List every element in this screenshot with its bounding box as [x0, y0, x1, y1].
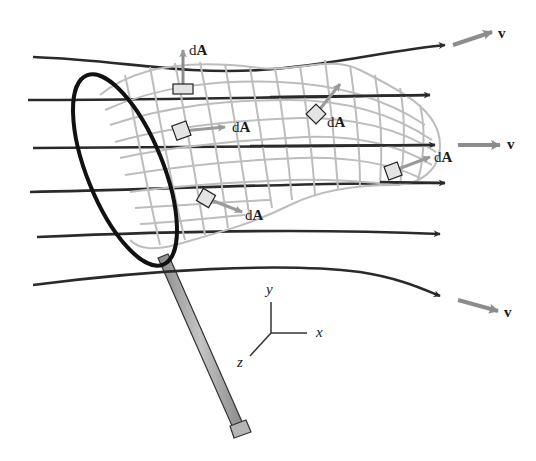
net-mesh [100, 60, 440, 248]
velocity-vectors [453, 32, 500, 311]
net-handle [158, 254, 251, 438]
dA-label-1: dA [189, 43, 207, 58]
velocity-label-1: v [498, 26, 506, 41]
flux-net-diagram [0, 0, 536, 461]
coordinate-axes [250, 302, 307, 356]
velocity-label-2: v [507, 137, 515, 152]
dA-label-2: dA [232, 120, 250, 135]
streamline-1 [33, 45, 445, 71]
velocity-vector-1 [453, 32, 492, 45]
z-axis-label: z [237, 355, 243, 370]
area-element-5 [196, 188, 242, 212]
dA-label-3: dA [327, 115, 345, 130]
z-axis [250, 333, 271, 356]
y-axis-label: y [266, 282, 273, 297]
dA-label-4: dA [434, 150, 452, 165]
velocity-vector-3 [458, 300, 498, 311]
velocity-label-3: v [504, 305, 512, 320]
dA-label-5: dA [245, 208, 263, 223]
x-axis-label: x [316, 325, 323, 340]
streamline-5 [37, 231, 440, 237]
streamline-6 [33, 268, 440, 296]
